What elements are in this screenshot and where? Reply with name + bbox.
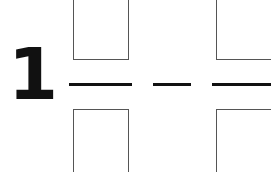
fraction-2-numerator-box[interactable] — [216, 0, 271, 60]
problem-number: 1 — [8, 38, 58, 110]
fraction-1-numerator-box[interactable] — [73, 0, 129, 60]
minus-sign — [153, 83, 191, 86]
fraction-1-denominator-box[interactable] — [73, 109, 129, 172]
fraction-2-denominator-box[interactable] — [216, 109, 271, 172]
fraction-1-bar — [69, 83, 132, 86]
fraction-2-bar — [212, 83, 271, 86]
